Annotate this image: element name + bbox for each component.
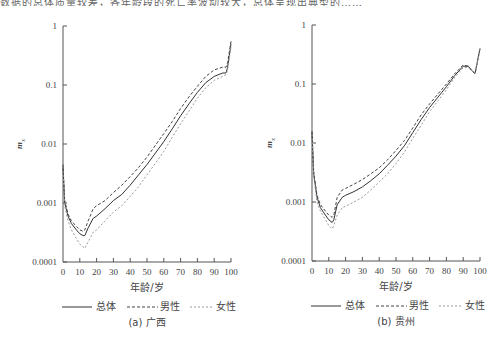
legend-label-male: 男性: [160, 300, 180, 312]
x-tick-label: 50: [143, 267, 153, 277]
x-tick-label: 10: [324, 266, 334, 276]
x-tick-label: 30: [358, 266, 368, 276]
legend-label-female: 女性: [465, 299, 485, 311]
chart-caption: (b) 贵州: [377, 315, 414, 327]
y-tick-label: 0.01: [290, 138, 306, 148]
y-tick-label: 0.001: [286, 197, 306, 207]
x-tick-label: 70: [176, 267, 186, 277]
y-axis-label: mx: [264, 137, 277, 148]
x-tick-label: 90: [459, 266, 469, 276]
x-tick-label: 20: [92, 267, 102, 277]
y-tick-label: 0.01: [41, 139, 57, 149]
x-tick-label: 60: [408, 266, 418, 276]
x-tick-label: 0: [61, 267, 66, 277]
y-axis-label: mx: [14, 138, 27, 149]
x-tick-label: 50: [392, 266, 402, 276]
y-tick-label: 0.1: [295, 79, 306, 89]
figure: 10.10.010.0010.0001010203040506070809010…: [0, 0, 502, 338]
y-tick-label: 0.0001: [32, 257, 57, 267]
x-tick-label: 30: [109, 267, 119, 277]
x-tick-label: 100: [224, 267, 238, 277]
x-tick-label: 40: [375, 266, 385, 276]
series-line-solid: [312, 49, 480, 223]
legend-label-total: 总体: [345, 299, 365, 311]
series-line-dashed: [63, 41, 231, 231]
x-tick-label: 20: [341, 266, 351, 276]
legend-label-total: 总体: [96, 300, 116, 312]
x-tick-label: 0: [310, 266, 315, 276]
x-tick-label: 80: [442, 266, 452, 276]
y-tick-label: 1: [302, 20, 307, 30]
x-tick-label: 80: [193, 267, 203, 277]
x-tick-label: 90: [210, 267, 220, 277]
series-line-dashed: [312, 49, 480, 218]
x-tick-label: 70: [425, 266, 435, 276]
y-tick-label: 0.001: [37, 198, 57, 208]
legend-label-male: 男性: [409, 299, 429, 311]
series-line-dotted: [63, 47, 231, 249]
x-axis-label: 年龄/岁: [379, 280, 412, 292]
series-line-solid: [63, 44, 231, 236]
x-tick-label: 40: [126, 267, 136, 277]
x-axis-label: 年龄/岁: [130, 281, 163, 293]
legend-label-female: 女性: [216, 300, 236, 312]
x-tick-label: 100: [473, 266, 487, 276]
y-tick-label: 0.1: [46, 80, 57, 90]
x-tick-label: 60: [159, 267, 169, 277]
y-tick-label: 1: [53, 21, 58, 31]
y-tick-label: 0.0001: [281, 256, 306, 266]
chart-caption: (a) 广西: [128, 317, 165, 328]
x-tick-label: 10: [75, 267, 85, 277]
